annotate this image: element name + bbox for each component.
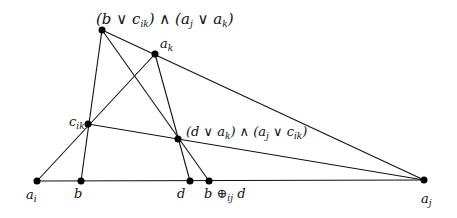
point-mid xyxy=(175,136,182,143)
label-top: (b ∨ cik) ∧ (aj ∨ ak) xyxy=(96,10,234,29)
label-bd: b ⊕ij d xyxy=(204,186,246,203)
diagram-canvas: (b ∨ cik) ∧ (aj ∨ ak) ak cik (d ∨ ak) ∧ … xyxy=(0,0,457,218)
line-ak-d xyxy=(155,54,190,181)
label-ak: ak xyxy=(160,36,173,53)
line-top-b xyxy=(81,30,102,181)
point-b xyxy=(78,178,85,185)
point-cik xyxy=(85,121,92,128)
label-cik: cik xyxy=(69,114,85,131)
lines xyxy=(37,30,424,181)
label-ai: ai xyxy=(26,187,37,204)
label-d: d xyxy=(177,186,185,201)
point-bd xyxy=(206,178,213,185)
line-top-aj xyxy=(102,30,424,180)
point-aj xyxy=(421,177,428,184)
label-mid: (d ∨ ak) ∧ (aj ∨ cik) xyxy=(186,124,307,141)
points xyxy=(34,27,428,185)
point-ak xyxy=(152,51,159,58)
line-ai-aj xyxy=(37,180,424,181)
point-d xyxy=(187,178,194,185)
point-ai xyxy=(34,178,41,185)
label-aj: aj xyxy=(421,191,432,208)
label-b: b xyxy=(74,186,82,201)
